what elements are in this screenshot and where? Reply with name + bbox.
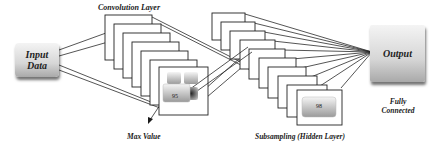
cnn-diagram: 95 98 Input Data Output Convolution Laye… [0, 0, 444, 149]
input-label-line1: Input [26, 49, 49, 60]
fully-connected-label: Fully Connected [382, 97, 415, 115]
subsampling-label: Subsampling (Hidden Layer) [255, 132, 345, 141]
subsampling-pooled-value: 98 [316, 103, 322, 109]
max-value-label: Max Value [127, 132, 161, 141]
output-node: Output [370, 25, 425, 82]
convolution-layer-label: Convolution Layer [98, 3, 160, 12]
output-label: Output [383, 48, 412, 59]
input-label-line2: Data [26, 60, 49, 71]
conv-pooled-value: 95 [172, 93, 178, 99]
input-data-node: Input Data [15, 43, 59, 77]
